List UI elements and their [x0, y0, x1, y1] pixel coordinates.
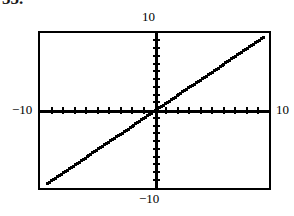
line-series-y-equals-x [40, 33, 269, 188]
y-axis-min-label: −10 [139, 192, 159, 206]
y-axis-max-label: 10 [142, 10, 155, 24]
x-axis-min-label: −10 [12, 103, 32, 117]
cropped-heading-fragment: 55. [2, 0, 23, 7]
x-axis-max-label: 10 [276, 103, 289, 117]
line-point [262, 36, 265, 39]
plot-area [40, 33, 269, 188]
graph-frame [38, 31, 271, 190]
